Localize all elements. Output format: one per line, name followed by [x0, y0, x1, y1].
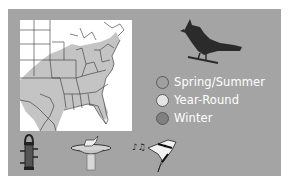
range-card: Spring/Summer Year-Round Winter ♪♫ — [8, 9, 281, 176]
legend-label: Year-Round — [174, 93, 239, 107]
range-map — [20, 20, 132, 131]
birdbath-icon — [68, 136, 114, 176]
tube-feeder-icon — [18, 133, 40, 175]
us-east-map-icon — [20, 20, 132, 131]
svg-text:♪♫: ♪♫ — [132, 142, 146, 152]
legend-item-spring-summer: Spring/Summer — [156, 73, 265, 91]
legend-label: Winter — [174, 111, 213, 125]
legend-item-winter: Winter — [156, 109, 265, 127]
singing-bird-icon: ♪♫ — [132, 136, 178, 178]
legend-label: Spring/Summer — [174, 75, 265, 89]
season-legend: Spring/Summer Year-Round Winter — [156, 73, 265, 127]
year-round-swatch-icon — [156, 94, 169, 107]
winter-swatch-icon — [156, 112, 169, 125]
spring-summer-swatch-icon — [156, 76, 169, 89]
legend-item-year-round: Year-Round — [156, 91, 265, 109]
cardinal-silhouette-icon — [178, 17, 248, 71]
